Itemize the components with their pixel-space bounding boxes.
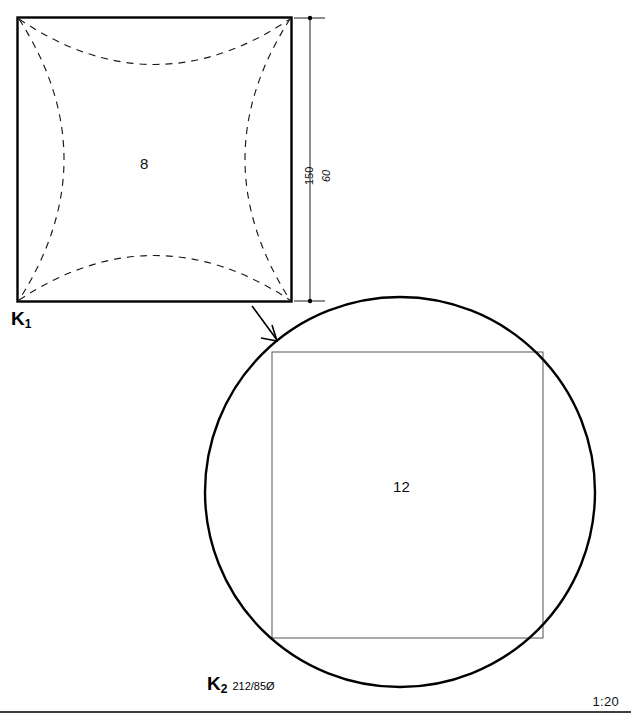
arc-top xyxy=(19,19,290,65)
caption-k1-letter: K xyxy=(11,308,25,329)
caption-k2-letter: K xyxy=(207,673,221,694)
arc-bottom xyxy=(19,256,290,301)
caption-k2-subscript: 2 xyxy=(221,682,228,696)
figure-caption-k2: K2212/85Ø xyxy=(207,673,270,695)
dim-tick-top xyxy=(308,16,312,20)
dimension-label-60: 60 xyxy=(320,170,332,182)
arc-left xyxy=(19,19,64,300)
square-center-number: 8 xyxy=(140,155,149,172)
circle-center-number: 12 xyxy=(393,478,410,495)
transform-arrow xyxy=(252,306,277,341)
dim-tick-bottom xyxy=(308,299,312,303)
arc-right xyxy=(245,19,290,300)
square-dashed-arcs xyxy=(19,19,290,300)
technical-drawing-canvas xyxy=(0,0,631,725)
inscribed-square-k2 xyxy=(272,352,543,638)
square-outline-k1 xyxy=(18,18,292,302)
dimension-label-150: 150 xyxy=(303,167,315,185)
arrow-shaft xyxy=(252,306,277,340)
caption-k2-spec: 212/85Ø xyxy=(232,680,274,692)
dimension-line-group xyxy=(294,16,325,303)
caption-k1-subscript: 1 xyxy=(25,317,32,331)
figure-caption-k1: K1 xyxy=(11,308,31,330)
scale-note: 1:20 xyxy=(592,694,619,709)
arrow-head xyxy=(261,325,277,341)
figure-k1-group xyxy=(18,16,326,341)
